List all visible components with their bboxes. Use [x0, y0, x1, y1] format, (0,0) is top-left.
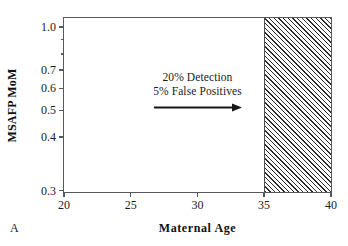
plot-area: 20% Detection 5% False Positives 1.0 0.7 — [63, 17, 332, 193]
x-tick-mark-25 — [130, 192, 131, 197]
panel-label: A — [10, 221, 19, 236]
y-tick-mark-0.9 — [61, 39, 64, 40]
y-tick-mark-1.0 — [59, 26, 64, 27]
y-tick-mark-0.6 — [59, 88, 64, 89]
y-tick-mark-0.4 — [59, 136, 64, 137]
arrow-right-icon — [154, 102, 242, 113]
x-tick-label-30: 30 — [192, 199, 204, 211]
x-tick-label-25: 25 — [125, 199, 137, 211]
y-tick-label-0.6: 0.6 — [41, 82, 56, 94]
y-axis-title-label: MSAFP MoM — [5, 68, 20, 142]
y-tick-label-0.3: 0.3 — [41, 185, 56, 197]
y-tick-label-0.4: 0.4 — [41, 131, 56, 143]
x-tick-mark-35 — [263, 192, 264, 197]
x-tick-label-35: 35 — [258, 199, 270, 211]
y-tick-label-0.5: 0.5 — [41, 104, 56, 116]
x-axis-title: Maternal Age — [63, 221, 332, 236]
y-tick-mark-0.8 — [61, 53, 64, 54]
x-tick-label-20: 20 — [58, 199, 70, 211]
advanced-maternal-age-hatched-region — [264, 18, 331, 192]
x-tick-mark-30 — [197, 192, 198, 197]
y-tick-mark-0.5 — [59, 110, 64, 111]
x-tick-label-40: 40 — [325, 199, 337, 211]
y-tick-label-1.0: 1.0 — [41, 21, 56, 33]
x-tick-mark-20 — [63, 192, 64, 197]
y-tick-label-0.7: 0.7 — [41, 64, 56, 76]
y-axis-title: MSAFP MoM — [4, 17, 20, 193]
x-tick-mark-40 — [330, 192, 331, 197]
figure-panel: MSAFP MoM 20% Detection 5% False Positiv… — [0, 0, 348, 246]
y-tick-mark-0.7 — [59, 69, 64, 70]
